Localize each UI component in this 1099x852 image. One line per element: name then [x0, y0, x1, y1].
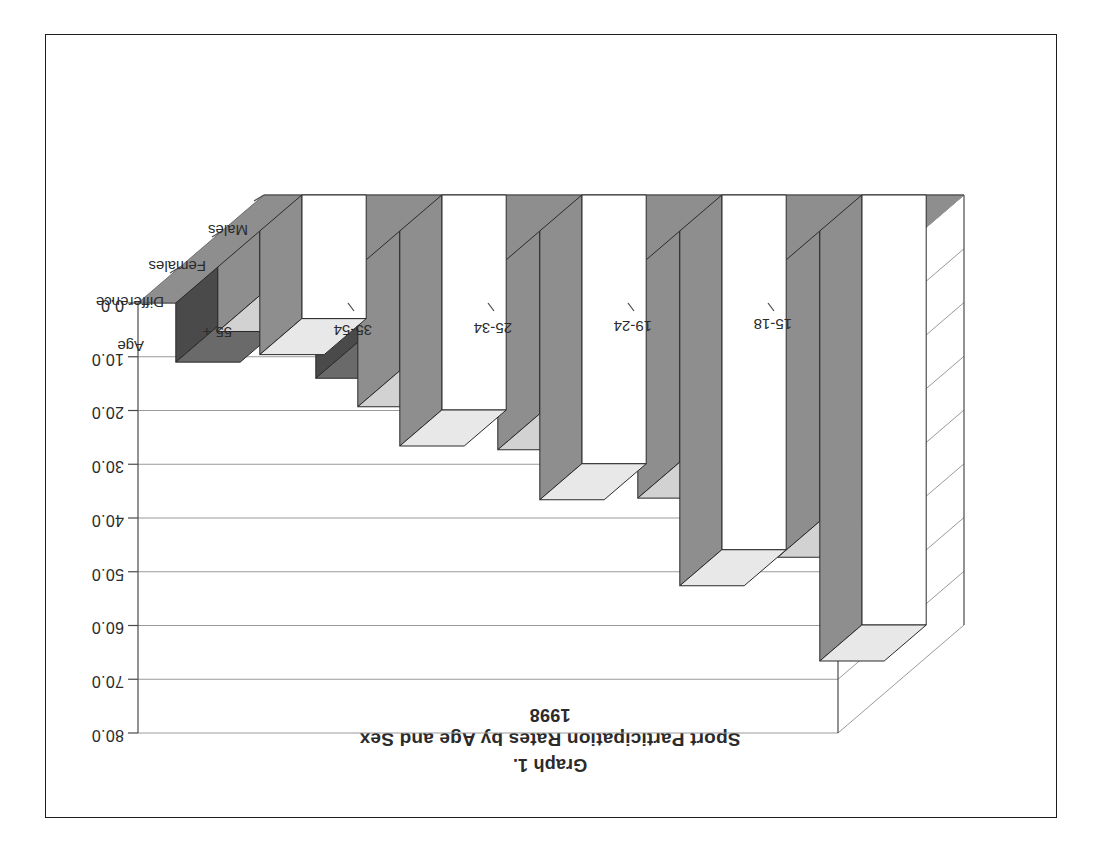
bar-side-face — [540, 195, 582, 500]
rotated-scan-content: Graph 1. Sport Participation Rates by Ag… — [0, 0, 1099, 852]
bar-side-face — [400, 195, 442, 446]
category-label-55: 55 + — [202, 324, 232, 341]
series-label-females: Females — [148, 258, 206, 275]
y-axis-tick-label: 40.0 — [92, 511, 124, 529]
bar-front-face — [302, 195, 366, 319]
bar-side-face — [680, 195, 722, 586]
y-axis-tick-label: 70.0 — [92, 672, 124, 690]
chart-year-label: 1998 — [44, 704, 1056, 725]
chart-titles: Graph 1. Sport Participation Rates by Ag… — [44, 704, 1056, 775]
bar-front-face — [862, 195, 926, 625]
bar-front-face — [442, 195, 506, 410]
plot-area: 0.010.020.030.040.050.060.070.080.015-18… — [64, 65, 1036, 665]
y-axis-tick-label: 20.0 — [92, 404, 124, 422]
category-label-35-54: 35-54 — [334, 322, 372, 339]
y-axis-tick-label: 80.0 — [92, 726, 124, 744]
y-axis-tick-label: 60.0 — [92, 619, 124, 637]
y-axis-tick-label: 30.0 — [92, 457, 124, 475]
chart-svg — [64, 65, 1036, 665]
category-label-15-18: 15-18 — [754, 316, 792, 333]
scanned-page: Graph 1. Sport Participation Rates by Ag… — [0, 0, 1099, 852]
chart-frame: Graph 1. Sport Participation Rates by Ag… — [45, 34, 1057, 818]
bar-front-face — [722, 195, 786, 550]
age-axis-title: Age — [117, 338, 144, 355]
page-title: Sport Participation Rates by Age and Sex — [44, 728, 1056, 750]
bar-side-face — [820, 195, 862, 661]
y-axis-tick-label: 50.0 — [92, 565, 124, 583]
series-label-males: Males — [208, 222, 248, 239]
category-label-19-24: 19-24 — [614, 318, 652, 335]
graph-number-label: Graph 1. — [44, 754, 1056, 775]
category-label-25-34: 25-34 — [474, 320, 512, 337]
series-label-difference: Difference — [96, 294, 164, 311]
